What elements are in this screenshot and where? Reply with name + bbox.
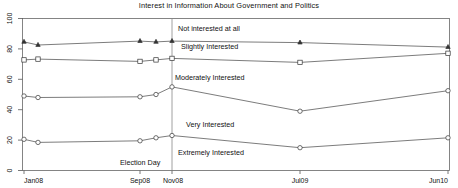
datapoint-marker xyxy=(22,94,26,98)
ytick-20: 20 xyxy=(6,136,13,144)
ytick-100: 100 xyxy=(6,13,13,25)
datapoint-marker xyxy=(154,136,158,140)
series-label-extremely: Extremely Interested xyxy=(178,148,244,157)
datapoint-marker xyxy=(138,59,142,63)
xtick-nov08: Nov08 xyxy=(163,177,183,184)
y-axis-labels: 0 20 40 60 80 100 xyxy=(6,13,13,173)
datapoint-marker xyxy=(446,136,450,140)
datapoint-marker xyxy=(154,58,158,62)
series-label-moderately: Moderately Interested xyxy=(175,73,245,82)
series-slightly-interested xyxy=(22,51,450,65)
datapoint-marker xyxy=(36,140,40,144)
datapoint-marker xyxy=(36,57,40,61)
datapoint-marker xyxy=(446,51,450,55)
x-axis-labels: Jan08 Sep08 Nov08 Jul09 Jun10 xyxy=(24,177,448,185)
datapoint-marker xyxy=(36,95,40,99)
datapoint-marker xyxy=(170,133,174,137)
series-label-not-interested: Not interested at all xyxy=(178,24,240,33)
datapoint-marker xyxy=(298,146,302,150)
series-moderately-interested xyxy=(22,85,450,114)
election-day-label: Election Day xyxy=(120,158,161,167)
y-axis-ticks xyxy=(18,19,23,171)
datapoint-marker xyxy=(170,85,174,89)
datapoint-marker xyxy=(22,58,26,62)
datapoint-marker xyxy=(138,139,142,143)
datapoint-marker xyxy=(298,109,302,113)
datapoint-marker xyxy=(154,39,158,43)
series-label-very: Very Interested xyxy=(186,120,234,129)
ytick-0: 0 xyxy=(6,168,13,172)
chart-svg: 0 20 40 60 80 100 Jan08 Sep08 Nov08 Jul0… xyxy=(0,0,458,188)
xtick-jun10: Jun10 xyxy=(429,177,448,184)
datapoint-marker xyxy=(138,39,142,43)
datapoint-marker xyxy=(170,39,174,43)
ytick-40: 40 xyxy=(6,106,13,114)
ytick-80: 80 xyxy=(6,45,13,53)
ytick-60: 60 xyxy=(6,75,13,83)
xtick-jan08: Jan08 xyxy=(24,177,43,184)
datapoint-marker xyxy=(138,95,142,99)
datapoint-marker xyxy=(298,60,302,64)
datapoint-marker xyxy=(154,92,158,96)
datapoint-marker xyxy=(298,40,302,44)
chart-root: Interest in Information About Government… xyxy=(0,0,458,188)
datapoint-marker xyxy=(446,89,450,93)
xtick-sep08: Sep08 xyxy=(130,177,150,185)
xtick-jul09: Jul09 xyxy=(292,177,309,184)
datapoint-marker xyxy=(22,137,26,141)
series-label-slightly: Slightly Interested xyxy=(181,42,238,51)
datapoint-marker xyxy=(170,56,174,60)
x-axis-ticks xyxy=(24,171,448,175)
